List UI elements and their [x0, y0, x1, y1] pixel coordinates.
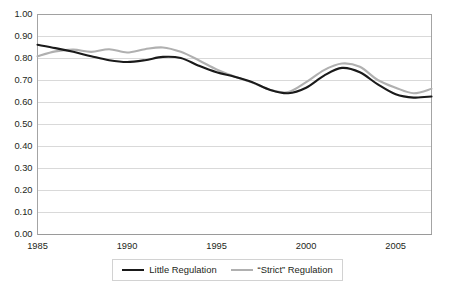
x-axis-tick-label: 2000 [296, 241, 317, 251]
legend-label-strict-regulation: “Strict” Regulation [258, 265, 333, 274]
y-axis-tick-label: 0.20 [14, 185, 32, 195]
x-axis-tick-label: 1995 [206, 241, 227, 251]
x-axis-tick-label: 1985 [27, 241, 48, 251]
legend-entry-strict-regulation: “Strict” Regulation [231, 265, 333, 274]
y-axis-tick-label: 0.80 [14, 53, 32, 63]
y-axis-tick-label: 0.90 [14, 31, 32, 41]
series-line-strict-regulation [38, 47, 432, 93]
y-axis-tick-label: 0.50 [14, 119, 32, 129]
y-axis-tick-label: 0.40 [14, 141, 32, 151]
x-axis-tick-label: 2005 [385, 241, 406, 251]
y-axis-tick-labels: 0.000.100.200.300.400.500.600.700.800.90… [14, 9, 32, 239]
data-series-group [38, 45, 432, 98]
y-axis-tick-label: 0.10 [14, 207, 32, 217]
y-axis-tick-label: 0.60 [14, 97, 32, 107]
line-chart: 0.000.100.200.300.400.500.600.700.800.90… [0, 0, 450, 301]
y-axis-tick-label: 0.30 [14, 163, 32, 173]
legend-swatch-strict-regulation [231, 269, 253, 271]
figure-container: 0.000.100.200.300.400.500.600.700.800.90… [0, 0, 450, 301]
x-axis-tick-label: 1990 [117, 241, 138, 251]
y-axis-tick-label: 0.00 [14, 229, 32, 239]
legend-entry-little-regulation: Little Regulation [122, 265, 216, 274]
y-axis-tick-label: 1.00 [14, 9, 32, 19]
series-line-little-regulation [38, 45, 432, 98]
y-axis-tick-label: 0.70 [14, 75, 32, 85]
legend-label-little-regulation: Little Regulation [149, 265, 216, 274]
chart-legend: Little Regulation “Strict” Regulation [112, 259, 343, 281]
x-axis-tick-labels: 19851990199520002005 [27, 241, 406, 251]
gridlines-group [38, 14, 432, 234]
legend-swatch-little-regulation [122, 269, 144, 271]
